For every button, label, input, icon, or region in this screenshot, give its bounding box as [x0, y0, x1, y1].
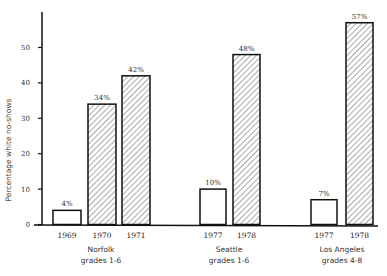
y-ticks: 01020304050: [21, 44, 42, 229]
bar-year-label: 1971: [126, 231, 145, 240]
bar-year-label: 1978: [237, 231, 256, 240]
bar-value-label: 7%: [318, 190, 329, 198]
group-label: Seattle: [216, 245, 243, 254]
bar-chart: Percentage white no-shows 01020304050 4%…: [0, 0, 387, 276]
bar: [233, 55, 260, 225]
y-tick-label: 30: [21, 115, 30, 123]
bar: [346, 23, 373, 225]
bar: [53, 210, 81, 224]
bar-value-label: 48%: [239, 45, 255, 53]
group-label: Los Angeles: [320, 245, 365, 254]
bar-year-label: 1969: [57, 231, 76, 240]
bar: [311, 200, 337, 225]
y-tick-label: 50: [21, 44, 30, 52]
group-label: grades 4-8: [322, 256, 363, 265]
bar: [122, 76, 150, 225]
bar-value-label: 10%: [205, 179, 221, 187]
group-label: grades 1-6: [81, 256, 122, 265]
y-tick-label: 20: [21, 150, 30, 158]
y-tick-label: 0: [26, 221, 30, 229]
bar-year-label: 1977: [203, 231, 222, 240]
bar-value-label: 57%: [352, 13, 368, 21]
bar-year-label: 1977: [314, 231, 333, 240]
bars: 4%196934%197042%197110%197748%19787%1977…: [53, 13, 373, 240]
y-tick-label: 10: [21, 186, 30, 194]
y-axis-label: Percentage white no-shows: [4, 98, 13, 201]
bar-value-label: 4%: [61, 200, 72, 208]
bar-year-label: 1970: [92, 231, 111, 240]
group-label: Norfolk: [88, 245, 116, 254]
group-labels: Norfolkgrades 1-6Seattlegrades 1-6Los An…: [81, 245, 365, 265]
bar: [200, 189, 226, 224]
y-tick-label: 40: [21, 79, 30, 87]
bar-value-label: 34%: [94, 94, 110, 102]
group-label: grades 1-6: [209, 256, 250, 265]
bar-value-label: 42%: [128, 66, 144, 74]
bar-year-label: 1978: [350, 231, 369, 240]
bar: [88, 104, 116, 224]
